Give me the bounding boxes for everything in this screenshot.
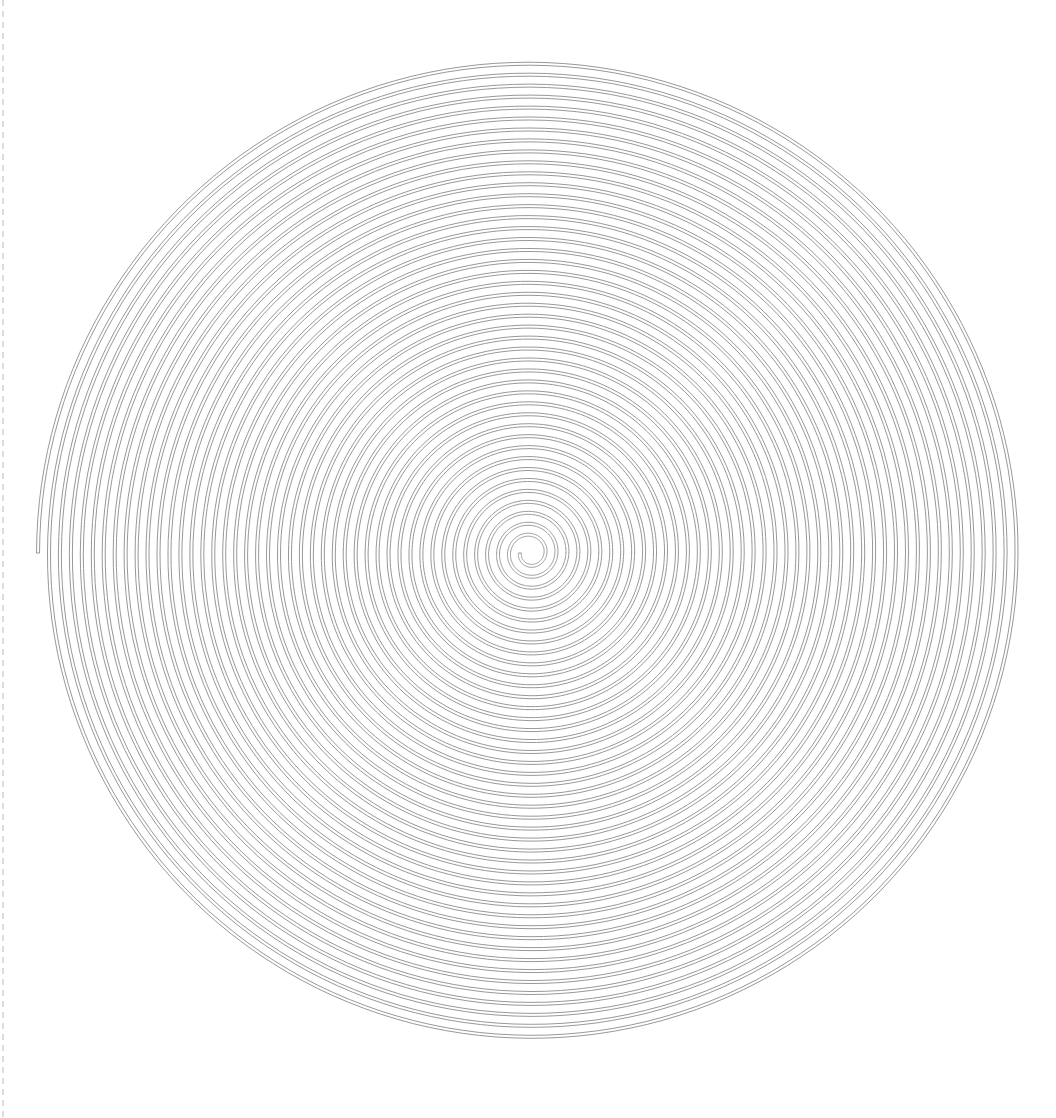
spiral-figure — [0, 0, 1056, 1118]
spiral-band-outline — [37, 62, 1019, 1038]
